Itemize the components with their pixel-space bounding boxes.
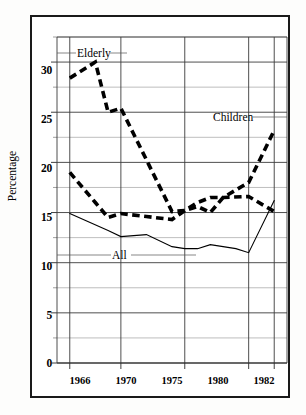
chart-canvas <box>0 0 306 415</box>
series-paths <box>70 62 274 253</box>
series-line-elderly <box>70 62 274 211</box>
series-line-children <box>70 130 274 219</box>
label-leader-lines <box>57 53 287 255</box>
chart-figure: Percentage 30 25 20 15 10 5 0 1966 1970 … <box>0 0 306 415</box>
gridlines <box>51 37 287 369</box>
